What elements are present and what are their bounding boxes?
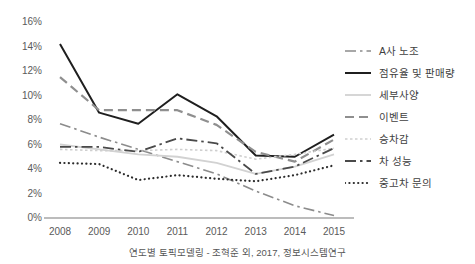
chart-legend: A사 노조점유율 및 판매량세부사양이벤트승차감차 성능중고차 문의 bbox=[345, 40, 473, 194]
legend-line-swatch-icon bbox=[345, 45, 371, 57]
legend-line-swatch-icon bbox=[345, 133, 371, 145]
x-tick-label: 2010 bbox=[127, 227, 149, 237]
chart-caption: 연도별 토픽모델링 - 조혁준 외, 2017, 정보시스템연구 bbox=[0, 245, 475, 259]
x-tick-label: 2011 bbox=[167, 227, 189, 237]
x-tick-label: 2012 bbox=[205, 227, 227, 237]
legend-item-3[interactable]: 이벤트 bbox=[345, 106, 473, 128]
legend-label: 차 성능 bbox=[379, 156, 412, 167]
x-tick-label: 2015 bbox=[323, 227, 345, 237]
legend-label: A사 노조 bbox=[379, 46, 419, 57]
legend-line-swatch-icon bbox=[345, 155, 371, 167]
legend-label: 점유율 및 판매량 bbox=[379, 68, 455, 79]
legend-label: 이벤트 bbox=[379, 112, 409, 123]
legend-label: 중고차 문의 bbox=[379, 178, 432, 189]
legend-line-swatch-icon bbox=[345, 177, 371, 189]
x-tick-label: 2014 bbox=[284, 227, 306, 237]
legend-label: 승차감 bbox=[379, 134, 409, 145]
x-tick-label: 2008 bbox=[49, 227, 71, 237]
x-tick-label: 2013 bbox=[245, 227, 267, 237]
chart-figure: 0%2%4%6%8%10%12%14%16% 20082009201020112… bbox=[0, 0, 475, 264]
legend-item-0[interactable]: A사 노조 bbox=[345, 40, 473, 62]
legend-item-2[interactable]: 세부사양 bbox=[345, 84, 473, 106]
legend-item-5[interactable]: 차 성능 bbox=[345, 150, 473, 172]
legend-line-swatch-icon bbox=[345, 67, 371, 79]
legend-item-6[interactable]: 중고차 문의 bbox=[345, 172, 473, 194]
legend-line-swatch-icon bbox=[345, 89, 371, 101]
legend-label: 세부사양 bbox=[379, 90, 419, 101]
legend-line-swatch-icon bbox=[345, 111, 371, 123]
legend-item-1[interactable]: 점유율 및 판매량 bbox=[345, 62, 473, 84]
x-tick-label: 2009 bbox=[88, 227, 110, 237]
legend-item-4[interactable]: 승차감 bbox=[345, 128, 473, 150]
